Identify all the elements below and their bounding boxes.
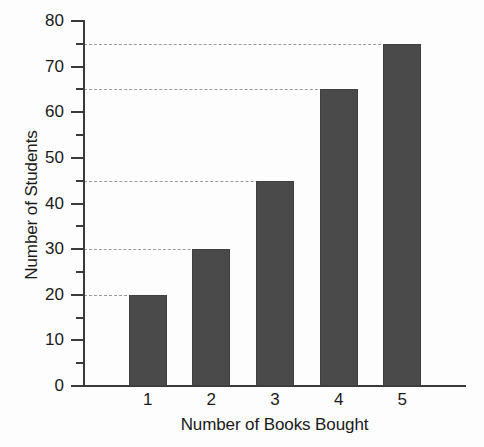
bar bbox=[383, 44, 421, 386]
y-axis-minor-tick bbox=[76, 134, 85, 136]
y-axis-minor-tick bbox=[76, 43, 85, 45]
y-axis-minor-tick bbox=[76, 317, 85, 319]
y-tick-label: 0 bbox=[16, 377, 64, 394]
y-tick-label: 50 bbox=[16, 149, 64, 166]
y-tick-label: 60 bbox=[16, 103, 64, 120]
x-tick-label: 1 bbox=[118, 391, 178, 408]
y-axis-minor-tick bbox=[76, 225, 85, 227]
y-tick-label: 70 bbox=[16, 58, 64, 75]
y-axis-major-tick bbox=[71, 111, 85, 113]
gridline bbox=[84, 44, 421, 45]
y-axis-minor-tick bbox=[76, 180, 85, 182]
y-tick-label: 20 bbox=[16, 286, 64, 303]
y-tick-label: 10 bbox=[16, 331, 64, 348]
y-axis-major-tick bbox=[71, 248, 85, 250]
x-tick-label: 3 bbox=[245, 391, 305, 408]
y-tick-label: 80 bbox=[16, 12, 64, 29]
bar bbox=[129, 295, 167, 386]
y-axis-major-tick bbox=[71, 157, 85, 159]
bar bbox=[256, 181, 294, 386]
y-axis-major-tick bbox=[71, 203, 85, 205]
y-axis-minor-tick bbox=[76, 362, 85, 364]
y-axis-major-tick bbox=[71, 294, 85, 296]
bar bbox=[192, 249, 230, 386]
x-axis-title: Number of Books Bought bbox=[83, 415, 466, 435]
y-axis-major-tick bbox=[71, 66, 85, 68]
y-axis-major-tick bbox=[71, 339, 85, 341]
y-axis-minor-tick bbox=[76, 88, 85, 90]
gridline bbox=[84, 89, 358, 90]
y-tick-label: 40 bbox=[16, 195, 64, 212]
x-tick-label: 4 bbox=[309, 391, 369, 408]
bar bbox=[320, 89, 358, 386]
y-axis-minor-tick bbox=[76, 271, 85, 273]
x-tick-label: 2 bbox=[181, 391, 241, 408]
y-tick-label: 30 bbox=[16, 240, 64, 257]
x-tick-label: 5 bbox=[372, 391, 432, 408]
y-axis-major-tick bbox=[71, 385, 85, 387]
y-axis-major-tick bbox=[71, 20, 85, 22]
bar-chart: Number of Students Number of Books Bough… bbox=[0, 0, 484, 447]
